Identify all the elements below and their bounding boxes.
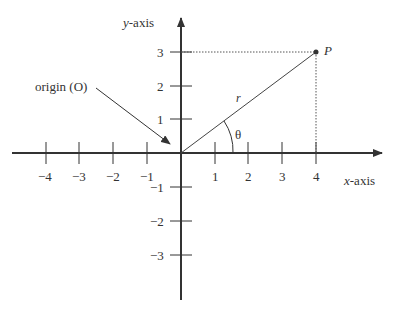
x-tick-label: −4	[38, 170, 52, 183]
y-tick-label: −3	[150, 249, 164, 262]
point-label: P	[324, 44, 332, 57]
y-tick-label: 1	[157, 113, 164, 126]
x-tick-label: 1	[212, 170, 219, 183]
x-tick-label: −3	[72, 170, 86, 183]
origin-label: origin (O)	[35, 80, 87, 93]
x-axis-label: x-axis	[344, 174, 375, 187]
x-tick-label: 3	[279, 170, 286, 183]
y-axis-label: y-axis	[123, 16, 154, 29]
x-tick-label: 4	[313, 170, 320, 183]
y-tick-label: −2	[150, 215, 164, 228]
x-tick-label: 2	[245, 170, 252, 183]
y-tick-label: 2	[157, 80, 164, 93]
coordinate-plane	[0, 0, 395, 315]
point-p	[314, 50, 319, 55]
x-tick-label: −2	[106, 170, 120, 183]
angle-label: θ	[235, 128, 241, 141]
radius-label: r	[236, 92, 241, 104]
angle-arc	[224, 121, 233, 153]
y-tick-label: −1	[150, 181, 164, 194]
y-tick-label: 3	[157, 46, 164, 59]
radius-line	[181, 52, 316, 153]
